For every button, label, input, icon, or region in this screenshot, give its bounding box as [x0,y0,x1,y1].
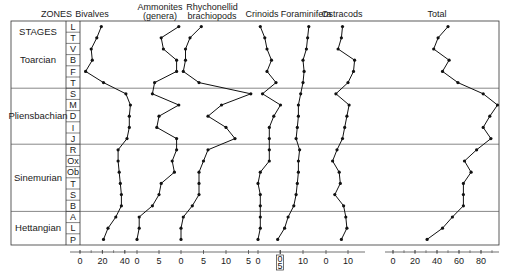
zone-label: T [70,179,76,189]
data-point [470,171,473,174]
data-point [297,171,300,174]
data-point [295,193,298,196]
series-label: Bivalves [75,9,109,19]
tick-label: 0 [255,256,260,266]
data-point [331,159,334,162]
zone-label: Ob [67,167,79,177]
data-point [287,215,290,218]
data-point [346,81,349,84]
data-point [268,148,271,151]
stratigraphic-chart: ZONESBivalvesAmmonites(genera)Rhychonell… [0,0,511,274]
data-point [106,227,109,230]
data-point [344,215,347,218]
data-point [102,238,105,241]
stage-label-pliensbachian: Pliensbachian [8,110,67,121]
data-point [261,92,264,95]
data-point [259,25,262,28]
tick-label: 5 [246,256,251,266]
data-point [482,126,485,129]
tick-label: 40 [432,256,442,266]
data-point [155,126,158,129]
tick-label: 0 [134,256,139,266]
data-point [224,126,227,129]
series-label: Ostracods [321,9,363,19]
series-total [426,25,500,241]
data-point [197,171,200,174]
tick-label: 0 [77,256,82,266]
data-point [462,182,465,185]
data-point [426,238,429,241]
series-label: (genera) [143,11,177,21]
data-point [259,227,262,230]
data-point [179,227,182,230]
series-line [258,27,281,240]
data-point [175,137,178,140]
data-point [259,204,262,207]
data-point [197,193,200,196]
zone-label: R [70,145,77,155]
data-point [462,193,465,196]
data-point [197,182,200,185]
series-group [84,25,499,241]
series-line [427,27,497,240]
data-point [200,25,203,28]
tick-label: 5 [201,256,206,266]
data-point [197,81,200,84]
data-point [340,36,343,39]
zone-label: V [70,44,76,54]
data-point [202,159,205,162]
data-point [337,47,340,50]
data-point [307,25,310,28]
data-point [441,70,444,73]
data-point [301,59,304,62]
data-point [259,193,262,196]
stage-column: STAGESToarcianPliensbachianSinemurianHet… [8,26,499,233]
data-point [276,238,279,241]
zone-label: L [70,22,75,32]
data-point [441,227,444,230]
zone-label: T [70,78,76,88]
stages-label: STAGES [19,26,57,37]
tick-label: 20 [410,256,420,266]
data-point [153,81,156,84]
column-labels: ZONESBivalvesAmmonites(genera)Rhychonell… [41,2,447,21]
data-point [206,148,209,151]
series-line [278,27,309,240]
series-ostracods [331,25,356,241]
data-point [298,148,301,151]
data-point [91,59,94,62]
tick-label: 60 [454,256,464,266]
data-point [432,47,435,50]
data-point [353,59,356,62]
data-point [451,215,454,218]
data-point [117,159,120,162]
data-point [125,137,128,140]
data-point [345,227,348,230]
data-point [340,238,343,241]
zone-label: D [70,111,77,121]
series-line [137,27,179,240]
data-point [335,148,338,151]
x-axes: 02040050510500510010020406080 [70,250,499,271]
data-point [151,92,154,95]
data-point [488,115,491,118]
data-point [160,182,163,185]
data-point [233,137,236,140]
data-point [297,103,300,106]
series-label: brachiopods [187,11,237,21]
zone-label: B [70,55,76,65]
data-point [256,238,259,241]
data-point [343,126,346,129]
data-point [283,227,286,230]
data-point [297,159,300,162]
data-point [299,92,302,95]
data-point [338,171,341,174]
data-point [100,25,103,28]
series-line [86,27,131,240]
data-point [341,137,344,140]
data-point [206,115,209,118]
data-point [345,115,348,118]
data-point [135,238,138,241]
data-point [119,182,122,185]
data-point [177,25,180,28]
